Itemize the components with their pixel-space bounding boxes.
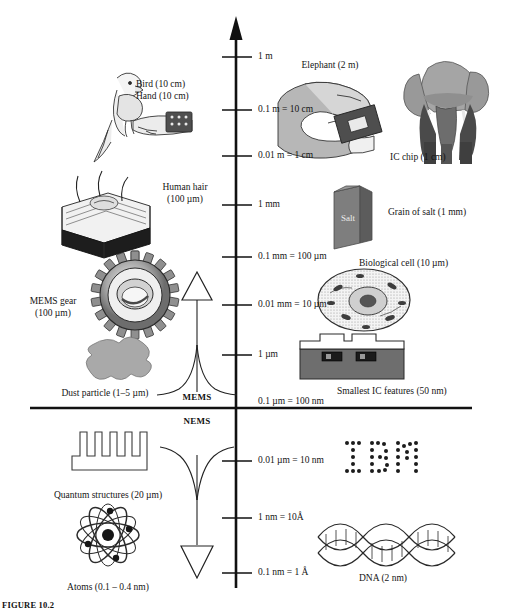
- label-human-hair-size: (100 µm): [167, 194, 203, 206]
- label-nems: NEMS: [184, 416, 211, 428]
- label-hand: Hand (10 cm): [136, 91, 189, 103]
- label-elephant: Elephant (2 m): [302, 60, 359, 72]
- dna-illustration: [318, 524, 455, 566]
- atoms-illustration: [75, 502, 141, 568]
- human-hair-illustration: [62, 171, 150, 258]
- tick-label-1m: 1 m: [258, 51, 273, 61]
- hand-illustration: [133, 112, 192, 135]
- label-mems-gear: MEMS gear: [30, 296, 77, 308]
- mems-gear-illustration: [91, 251, 179, 339]
- label-human-hair: Human hair: [162, 182, 207, 194]
- figure-caption: FIGURE 10.2: [2, 600, 54, 610]
- tick-label-10um: 0.01 mm = 10 µm: [258, 299, 327, 309]
- tick-label-100um: 0.1 mm = 100 µm: [258, 251, 327, 261]
- label-quantum-structures: Quantum structures (20 µm): [54, 490, 162, 502]
- label-dna: DNA (2 nm): [359, 573, 407, 585]
- axis-group: [222, 16, 252, 588]
- label-mems-gear-size: (100 µm): [35, 308, 71, 320]
- tick-label-1cm: 0.01 m = 1 cm: [258, 150, 313, 160]
- dust-particle-illustration: [86, 337, 151, 380]
- label-mems: MEMS: [183, 392, 212, 404]
- elephant-illustration: [404, 61, 489, 164]
- tick-label-1angstrom: 0.1 nm = 1 Å: [258, 567, 308, 577]
- smallest-ic-features-illustration: [300, 334, 404, 379]
- label-ic-chip: IC chip (1 cm): [390, 152, 446, 164]
- label-biological-cell: Biological cell (10 µm): [359, 258, 448, 270]
- tick-label-1um: 1 µm: [258, 349, 278, 359]
- ibm-atoms-illustration: [345, 441, 418, 473]
- label-atoms: Atoms (0.1 – 0.4 nm): [67, 582, 149, 594]
- label-salt-text: Salt: [341, 213, 355, 225]
- quantum-structures-illustration: [72, 432, 147, 470]
- label-dust-particle: Dust particle (1–5 µm): [62, 388, 149, 400]
- label-smallest-ic: Smallest IC features (50 nm): [337, 386, 447, 398]
- biological-cell-illustration: [318, 269, 410, 331]
- tick-label-1mm: 1 mm: [258, 199, 280, 209]
- label-grain-of-salt: Grain of salt (1 mm): [388, 207, 466, 219]
- tick-label-1nm: 1 nm = 10Å: [258, 512, 304, 522]
- tick-label-100nm: 0.1 µm = 100 nm: [258, 396, 324, 406]
- ic-chip-hand-illustration: [278, 82, 382, 158]
- nems-arrow: [160, 447, 234, 578]
- tick-label-10cm: 0.1 m = 10 cm: [258, 104, 313, 114]
- length-scale-figure: 1 m 0.1 m = 10 cm 0.01 m = 1 cm 1 mm 0.1…: [0, 0, 509, 613]
- label-bird: Bird (10 cm): [136, 79, 185, 91]
- tick-label-10nm: 0.01 µm = 10 nm: [258, 455, 324, 465]
